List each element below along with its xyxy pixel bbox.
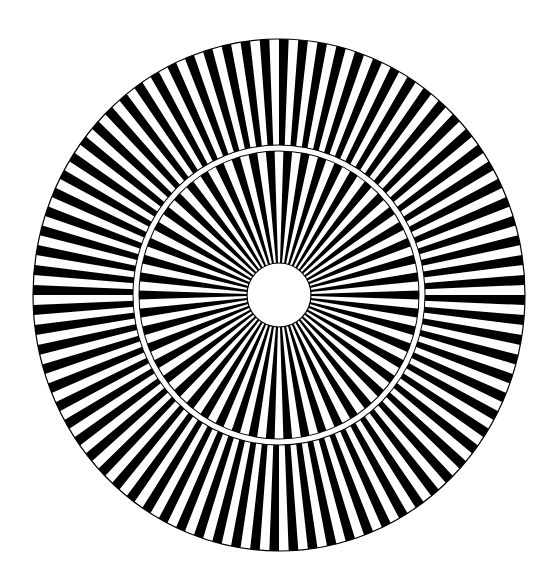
spoke-target-figure: [0, 0, 557, 583]
radial-spoke-svg: [0, 0, 557, 583]
center-hole: [247, 263, 311, 327]
